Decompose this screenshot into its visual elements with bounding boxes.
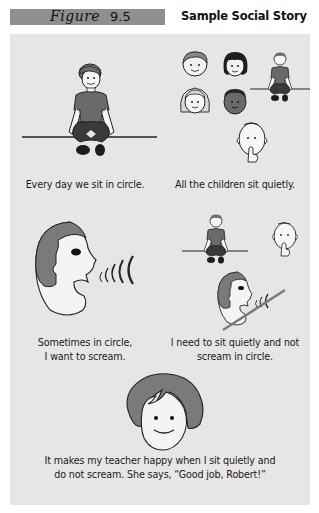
story-caption-4: I need to sit quietly and not scream in … — [160, 336, 310, 364]
boy-sitting-small-icon — [250, 52, 310, 107]
story-caption-5-line2: do not scream. She says, “Good job, Robe… — [10, 468, 310, 482]
story-caption-2: All the children sit quietly. — [160, 178, 310, 192]
figure-label: Figure 9.5 — [10, 9, 165, 25]
shush-face-small-icon — [268, 220, 302, 262]
boy-sitting-cross-legged-icon — [22, 62, 157, 162]
story-caption-5: It makes my teacher happy when I sit qui… — [10, 454, 310, 482]
screaming-head-icon — [28, 220, 158, 320]
boy-sitting-small-icon-2 — [182, 214, 252, 269]
story-caption-3-line1: Sometimes in circle, — [10, 336, 160, 350]
no-scream-icon — [215, 270, 290, 332]
story-caption-1: Every day we sit in circle. — [10, 178, 160, 192]
story-caption-3-line2: I want to scream. — [10, 350, 160, 364]
smiling-teacher-face-icon — [120, 372, 210, 452]
social-story-panel: Every day we sit in circle. — [10, 34, 310, 505]
figure-label-word: Figure — [50, 8, 100, 24]
story-caption-5-line1: It makes my teacher happy when I sit qui… — [10, 454, 310, 468]
figure-title: Sample Social Story — [181, 9, 307, 23]
children-faces-icon — [178, 50, 258, 120]
story-caption-3: Sometimes in circle, I want to scream. — [10, 336, 160, 364]
shush-face-icon — [232, 120, 272, 170]
story-caption-4-line1: I need to sit quietly and not — [160, 336, 310, 350]
story-caption-4-line2: scream in circle. — [160, 350, 310, 364]
figure-label-number: 9.5 — [110, 9, 131, 24]
